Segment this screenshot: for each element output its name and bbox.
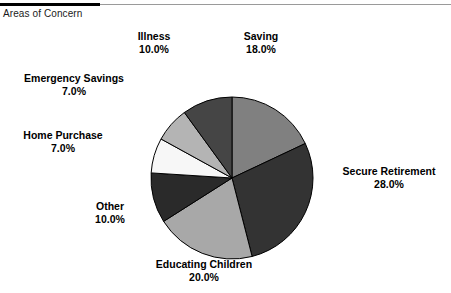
slice-label-other-name: Other <box>76 200 144 213</box>
slice-label-other-value: 10.0% <box>76 213 144 226</box>
slice-label-saving-value: 18.0% <box>216 43 306 56</box>
header-rule-dark <box>0 3 100 6</box>
slice-label-secure-retirement: Secure Retirement 28.0% <box>327 165 451 191</box>
slice-label-illness-value: 10.0% <box>116 43 192 56</box>
slice-label-educating-children-name: Educating Children <box>128 258 280 271</box>
slice-label-educating-children-value: 20.0% <box>128 271 280 284</box>
slice-label-home-purchase-value: 7.0% <box>4 142 122 155</box>
slice-label-home-purchase-name: Home Purchase <box>4 129 122 142</box>
slice-label-home-purchase: Home Purchase 7.0% <box>4 129 122 155</box>
slice-label-saving: Saving 18.0% <box>216 30 306 56</box>
slice-label-emergency-savings: Emergency Savings 7.0% <box>4 72 144 98</box>
pie-graphic <box>150 96 314 260</box>
slice-label-other: Other 10.0% <box>76 200 144 226</box>
slice-label-emergency-savings-value: 7.0% <box>4 85 144 98</box>
page-title: Areas of Concern <box>3 8 82 19</box>
slice-label-illness-name: Illness <box>116 30 192 43</box>
slice-label-emergency-savings-name: Emergency Savings <box>4 72 144 85</box>
slice-label-illness: Illness 10.0% <box>116 30 192 56</box>
slice-label-secure-retirement-value: 28.0% <box>327 178 451 191</box>
slice-label-saving-name: Saving <box>216 30 306 43</box>
slice-label-educating-children: Educating Children 20.0% <box>128 258 280 284</box>
pie-chart: Saving 18.0% Secure Retirement 28.0% Edu… <box>0 22 451 293</box>
slice-label-secure-retirement-name: Secure Retirement <box>327 165 451 178</box>
header-rule-light <box>100 4 451 5</box>
pie-svg <box>150 96 314 260</box>
